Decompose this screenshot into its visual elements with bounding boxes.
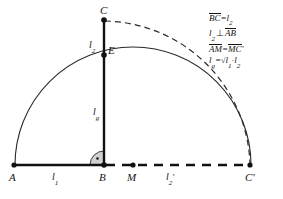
annotation-line-4: lg=√l1·l2 — [209, 55, 244, 70]
right-angle-dot — [96, 157, 99, 160]
segment-label-l2-prime-sub: 2 — [169, 179, 173, 187]
point-B-dot — [101, 162, 107, 168]
point-label-M: M — [127, 172, 136, 183]
annotation-4-sub: g — [212, 62, 216, 70]
annotation-3-overline-MC: MC — [228, 44, 242, 54]
point-label-E: E — [108, 45, 115, 56]
point-M-dot — [130, 162, 135, 167]
point-E-dot — [101, 52, 107, 58]
segment-label-l1: l1 — [52, 172, 58, 185]
segment-label-l2-prime: l2' — [166, 172, 174, 185]
segment-label-l2-vertical-sub: 2 — [92, 47, 96, 55]
point-C-dot — [101, 17, 107, 23]
segment-label-lg-sub: g — [96, 114, 100, 122]
point-Cprime-dot — [247, 162, 252, 167]
annotation-line-3: AM=MC' — [209, 44, 244, 56]
annotation-3-overline-AM: AM — [209, 44, 222, 54]
annotation-1-overline-BC: BC — [209, 13, 221, 23]
annotation-1-sub: 2 — [229, 19, 233, 27]
geometry-diagram: A B M C' C E l1 l2' l2 lg BC=l2 l2⊥AB AM… — [0, 0, 283, 199]
annotation-4-radicand: l1·l2 — [225, 55, 240, 65]
segment-label-lg: lg — [93, 107, 99, 120]
annotation-block: BC=l2 l2⊥AB AM=MC' lg=√l1·l2 — [209, 13, 244, 71]
perpendicular-icon: ⊥ — [215, 28, 225, 38]
annotation-4-r2-sub: 2 — [237, 62, 241, 70]
segment-label-l2-prime-mark: ' — [172, 172, 174, 182]
annotation-2-sub: 2 — [212, 35, 216, 43]
annotation-line-1: BC=l2 — [209, 13, 244, 28]
segment-label-l1-sub: 1 — [55, 179, 59, 187]
annotation-line-2: l2⊥AB — [209, 28, 244, 43]
point-label-C: C — [100, 5, 107, 16]
annotation-2-overline-AB: AB — [225, 28, 236, 38]
point-A-dot — [11, 162, 16, 167]
point-label-Cprime: C' — [245, 172, 255, 183]
annotation-4-r1-sub: 1 — [228, 62, 232, 70]
segment-label-l2-vertical: l2 — [89, 40, 95, 53]
annotation-3-prime: ' — [242, 44, 244, 54]
point-label-B: B — [99, 172, 106, 183]
point-label-A: A — [9, 172, 16, 183]
